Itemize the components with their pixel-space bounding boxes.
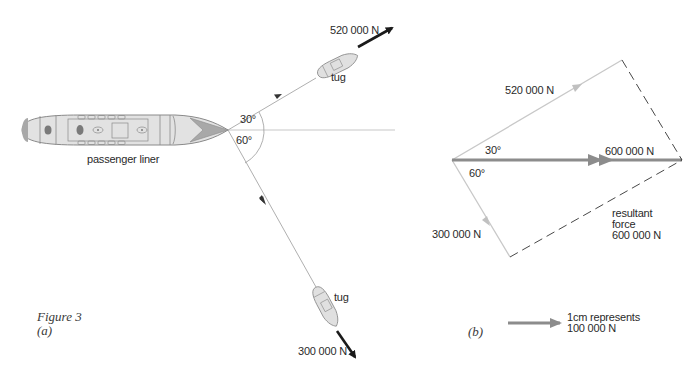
upper-angle-label: 30° xyxy=(240,113,256,125)
lower-vector-label: 300 000 N xyxy=(432,228,481,240)
upper-angle-b-label: 30° xyxy=(485,144,501,156)
lower-angle-label: 60° xyxy=(236,134,252,146)
passenger-liner xyxy=(22,115,228,145)
part-b-label: (b) xyxy=(468,325,483,339)
upper-vector xyxy=(452,60,622,160)
part-a-label: (a) xyxy=(37,324,52,338)
resultant-label: resultant force 600 000 N xyxy=(612,208,661,241)
liner-label: passenger liner xyxy=(87,153,159,165)
upper-tug-label: tug xyxy=(331,71,346,83)
lower-tow-line xyxy=(228,130,316,287)
upper-force-label: 520 000 N xyxy=(330,24,379,36)
resultant-vector-label: 600 000 N xyxy=(605,145,654,157)
upper-vector-label: 520 000 N xyxy=(505,84,554,96)
resultant-label-line3: 600 000 N xyxy=(612,230,661,241)
lower-angle-b-label: 60° xyxy=(469,167,485,179)
scale-label: 1cm represents 100 000 N xyxy=(567,312,640,334)
lower-force-label: 300 000 N xyxy=(298,345,347,357)
scale-label-line2: 100 000 N xyxy=(567,323,640,334)
lower-tug-label: tug xyxy=(334,291,349,303)
figure-caption: Figure 3 xyxy=(37,310,82,324)
